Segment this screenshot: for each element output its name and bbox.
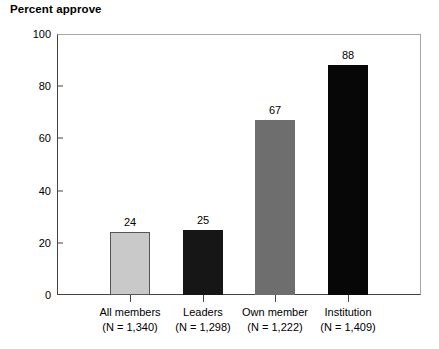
x-axis-label-sample-size: (N = 1,340) (99, 320, 160, 335)
x-axis-label: All members(N = 1,340) (99, 305, 160, 335)
x-tick-mark (275, 295, 276, 302)
y-tick-label: 40 (39, 185, 51, 197)
y-axis: 020406080100 (0, 34, 51, 295)
x-axis-label-category: Leaders (183, 306, 223, 318)
y-tick-label: 80 (39, 80, 51, 92)
x-axis-label-sample-size: (N = 1,409) (320, 320, 375, 335)
y-tick-label: 0 (45, 289, 51, 301)
y-tick-mark (57, 86, 63, 87)
x-axis-label: Institution(N = 1,409) (320, 305, 375, 335)
y-tick-label: 20 (39, 237, 51, 249)
y-tick-mark (57, 138, 63, 139)
x-axis-label: Own member(N = 1,222) (242, 305, 308, 335)
y-tick-mark (57, 242, 63, 243)
x-axis-label-category: Institution (324, 306, 371, 318)
x-axis-label: Leaders(N = 1,298) (175, 305, 230, 335)
x-axis-label-category: Own member (242, 306, 308, 318)
x-tick-mark (130, 295, 131, 302)
bar-own-member (255, 120, 295, 295)
y-tick-label: 100 (33, 28, 51, 40)
x-axis-label-sample-size: (N = 1,222) (242, 320, 308, 335)
chart-figure: Percent approve 020406080100 24256788 Al… (0, 0, 439, 349)
x-tick-mark (348, 295, 349, 302)
bar-value-label: 24 (124, 216, 136, 228)
bar-leaders (183, 230, 223, 295)
x-axis-label-category: All members (99, 306, 160, 318)
bar-value-label: 25 (197, 214, 209, 226)
bar-institution (328, 65, 368, 295)
bar-value-label: 67 (269, 104, 281, 116)
bar-all-members (110, 232, 150, 295)
plot-area: 24256788 (57, 34, 421, 295)
bar-value-label: 88 (342, 49, 354, 61)
y-tick-mark (57, 190, 63, 191)
x-axis-label-sample-size: (N = 1,298) (175, 320, 230, 335)
x-tick-mark (203, 295, 204, 302)
chart-title: Percent approve (10, 3, 102, 15)
y-tick-label: 60 (39, 132, 51, 144)
